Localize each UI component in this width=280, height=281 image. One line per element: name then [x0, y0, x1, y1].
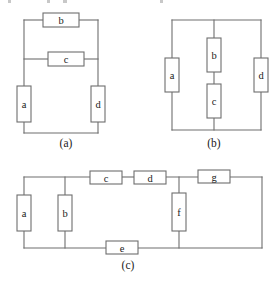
panel-caption-c: (c) [122, 259, 135, 272]
circuit-element-c-a: a [17, 195, 31, 231]
top-edge-artifact [63, 0, 67, 3]
figure-canvas: bcad(a)abcd(b)abcdefg(c) [0, 0, 280, 281]
circuit-panel-a: bcad(a) [17, 13, 105, 150]
circuit-element-a-d: d [91, 86, 105, 122]
panel-caption-b: (b) [207, 137, 221, 150]
circuit-element-b-d: d [254, 58, 268, 92]
element-label: d [258, 70, 264, 81]
element-label: b [211, 50, 216, 61]
circuit-element-b-a: a [165, 58, 179, 92]
element-label: d [95, 99, 101, 110]
top-edge-artifact [47, 0, 50, 3]
circuit-element-c-e: e [106, 241, 138, 254]
circuit-element-c-g: g [198, 170, 230, 183]
element-label: c [104, 173, 109, 184]
circuit-element-c-f: f [172, 193, 186, 231]
circuit-element-c-d: d [134, 171, 166, 184]
circuit-element-a-c: c [48, 52, 84, 66]
top-edge-artifact [8, 0, 11, 3]
circuit-element-c-b: b [58, 195, 72, 231]
element-label: g [211, 172, 217, 183]
element-label: d [147, 173, 153, 184]
panel-caption-a: (a) [60, 137, 73, 150]
element-label: a [22, 208, 27, 219]
circuit-element-a-a: a [17, 86, 31, 122]
top-edge-artifacts [8, 0, 163, 3]
element-label: b [62, 208, 67, 219]
circuit-element-b-c: c [207, 84, 221, 118]
element-label: a [22, 99, 27, 110]
element-label: c [212, 96, 217, 107]
element-label: e [120, 243, 125, 254]
circuit-panel-b: abcd(b) [165, 20, 268, 150]
circuit-element-c-c: c [90, 171, 122, 184]
circuit-element-a-b: b [43, 13, 79, 27]
element-label: f [177, 207, 181, 218]
circuit-figure: bcad(a)abcd(b)abcdefg(c) [0, 0, 280, 281]
element-label: c [64, 54, 69, 65]
circuit-panels: bcad(a)abcd(b)abcdefg(c) [17, 13, 268, 272]
element-label: b [58, 15, 63, 26]
circuit-panel-c: abcdefg(c) [17, 170, 262, 272]
top-edge-artifact [160, 0, 163, 3]
circuit-element-b-b: b [207, 38, 221, 72]
element-label: a [170, 70, 175, 81]
